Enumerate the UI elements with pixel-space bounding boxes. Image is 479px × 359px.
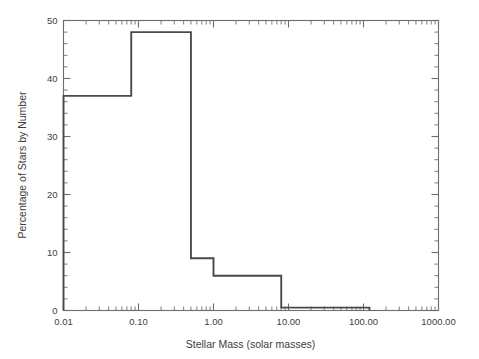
x-tick-label: 1.00 xyxy=(204,316,223,327)
x-tick-label: 0.01 xyxy=(54,316,73,327)
y-tick-label: 0 xyxy=(52,305,57,316)
chart-figure: 0.010.101.0010.00100.001000.00 010203040… xyxy=(0,0,479,359)
x-tick-label: 1000.00 xyxy=(421,316,455,327)
x-tick-label: 10.00 xyxy=(277,316,301,327)
y-tick-label: 10 xyxy=(47,247,58,258)
y-tick-label: 20 xyxy=(47,189,58,200)
chart-background xyxy=(0,0,479,359)
histogram-plot: 0.010.101.0010.00100.001000.00 010203040… xyxy=(0,0,479,359)
x-tick-label: 100.00 xyxy=(349,316,378,327)
y-axis-label: Percentage of Stars by Number xyxy=(16,91,28,239)
y-tick-label: 30 xyxy=(47,131,58,142)
y-tick-label: 40 xyxy=(47,73,58,84)
x-tick-label: 0.10 xyxy=(129,316,148,327)
x-axis-label: Stellar Mass (solar masses) xyxy=(186,338,316,350)
y-tick-label: 50 xyxy=(47,15,58,26)
